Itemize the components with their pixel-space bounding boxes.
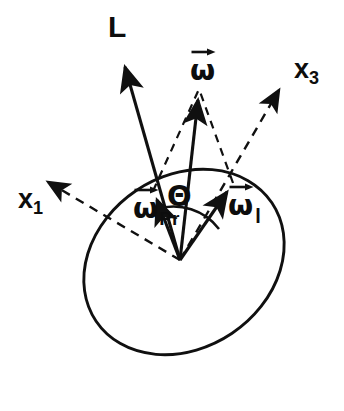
label-angle-theta: Θ xyxy=(167,182,192,211)
axis-x3-symbol: x xyxy=(294,54,309,84)
omega-total-symbol: ω xyxy=(190,56,215,85)
omega-body-symbol: ω xyxy=(228,191,253,220)
omega-body-subscript: l xyxy=(255,205,261,227)
omega-precession-symbol: ω xyxy=(133,194,158,223)
label-axis-x3: x3 xyxy=(294,56,319,83)
label-axis-x1: x1 xyxy=(18,186,43,213)
label-omega-body: ωl xyxy=(228,191,259,220)
omega-body-glyph-wrap: ωl xyxy=(228,191,259,220)
axis-x1-symbol: x xyxy=(18,184,33,214)
rigid-body-ellipse xyxy=(48,131,320,392)
label-omega-total: ω xyxy=(190,56,215,85)
omega-total-glyph-wrap: ω xyxy=(190,56,215,85)
label-angular-momentum-L: L xyxy=(108,12,126,42)
axis-x1-subscript: 1 xyxy=(33,198,43,218)
physics-diagram-figure: L ω ωPr ωl x1 xyxy=(0,0,344,411)
axis-x3-subscript: 3 xyxy=(309,68,319,88)
